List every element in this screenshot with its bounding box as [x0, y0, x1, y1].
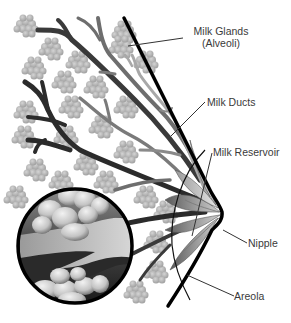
- label-areola: Areola: [234, 290, 264, 302]
- label-milk-glands: Milk Glands (Alveoli): [183, 25, 259, 49]
- magnified-alveoli-view: [18, 186, 135, 308]
- label-nipple: Nipple: [248, 237, 278, 249]
- label-milk-glands-line2: (Alveoli): [183, 37, 259, 49]
- leader-areola: [187, 275, 234, 296]
- label-milk-reservoir: Milk Reservoir: [213, 146, 280, 158]
- label-milk-glands-line1: Milk Glands: [183, 25, 259, 37]
- leader-nipple: [223, 230, 247, 243]
- label-milk-ducts: Milk Ducts: [207, 96, 255, 108]
